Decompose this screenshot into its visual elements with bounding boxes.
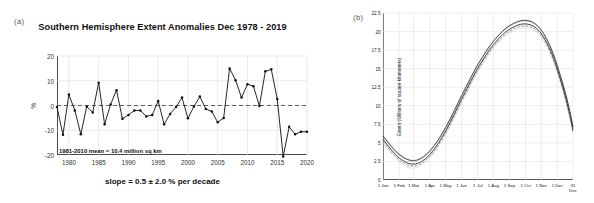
panel-a-chart-svg (57, 56, 307, 155)
panel-a-ytick-20: 20 (47, 53, 57, 60)
panel-a-xtick-2000: 2000 (181, 155, 195, 166)
panel-b-xtick-oct: 1 Oct (520, 180, 531, 188)
panel-b-plot-area: 22.5 20 17.5 15 12.5 10 7.5 5 2.5 0 Exte… (383, 13, 573, 180)
panel-b-xtick-apr: 1 Apr (425, 180, 435, 188)
panel-a-xtick-2010: 2010 (240, 155, 254, 166)
panel-b-ytick-20: 20 (375, 29, 383, 34)
panel-b-ytick-2-5: 2.5 (374, 159, 383, 164)
panel-b-ytick-5: 5 (378, 140, 383, 145)
panel-b-xtick-feb: 1 Feb (394, 180, 405, 188)
panel-a-ytick-10: 10 (47, 77, 57, 84)
panel-b-ytick-22-5: 22.5 (372, 11, 383, 16)
panel-a-ytick-0: 0 (50, 102, 57, 109)
two-panel-figure: (a) Southern Hemisphere Extent Anomalies… (0, 0, 594, 203)
panel-a-mean-annotation: 1981-2010 mean = 10.4 million sq km (59, 148, 162, 154)
panel-b-label: (b) (353, 13, 363, 22)
panel-a-anomalies: (a) Southern Hemisphere Extent Anomalies… (0, 0, 325, 203)
panel-a-xtick-2020: 2020 (300, 155, 314, 166)
panel-a-xtick-1990: 1990 (121, 155, 135, 166)
panel-a-xtick-2005: 2005 (211, 155, 225, 166)
panel-a-xtick-2015: 2015 (270, 155, 284, 166)
panel-a-xtick-1995: 1995 (151, 155, 165, 166)
panel-b-xtick-nov: 1 Nov (536, 180, 547, 188)
panel-b-xtick-may: 1 May (439, 180, 451, 188)
panel-b-ytick-15: 15 (375, 66, 383, 71)
panel-a-ylabel: % (30, 103, 37, 109)
panel-b-ytick-12-5: 12.5 (372, 85, 383, 90)
panel-b-ytick-10: 10 (375, 103, 383, 108)
panel-b-seasonal-cycle: (b) (325, 0, 594, 203)
panel-a-horizontal-gridlines (57, 56, 307, 130)
panel-a-title: Southern Hemisphere Extent Anomalies Dec… (0, 22, 325, 32)
panel-a-anomaly-line (57, 68, 307, 156)
panel-b-ylabel: Extent (Millions of square kilometers) (397, 37, 402, 157)
panel-b-ytick-7-5: 7.5 (374, 122, 383, 127)
panel-b-chart-svg (383, 13, 573, 180)
panel-a-slope-caption: slope = 0.5 ± 2.0 % per decade (0, 177, 325, 186)
panel-a-plot-area: 20 10 0 -10 -20 % 1980 1985 1990 1995 20… (57, 56, 307, 155)
panel-a-xtick-1985: 1985 (92, 155, 106, 166)
panel-a-xtick-1980: 1980 (62, 155, 76, 166)
panel-b-xtick-dec31: 31 Dec (569, 180, 577, 193)
panel-b-xtick-jun: 1 Jun (456, 180, 467, 188)
panel-b-ytick-17-5: 17.5 (372, 48, 383, 53)
panel-b-xtick-sep: 1 Sep (504, 180, 515, 188)
panel-a-ytick-neg10: -10 (45, 127, 57, 134)
panel-b-xtick-aug: 1 Aug (488, 180, 499, 188)
panel-a-ytick-neg20: -20 (45, 152, 57, 159)
panel-b-xtick-jan: 1 Jan (378, 180, 389, 188)
panel-b-xtick-jul: 1 Jul (473, 180, 482, 188)
panel-b-xtick-dec: 1 Dec (552, 180, 563, 188)
panel-b-xtick-mar: 1 Mar (408, 180, 419, 188)
